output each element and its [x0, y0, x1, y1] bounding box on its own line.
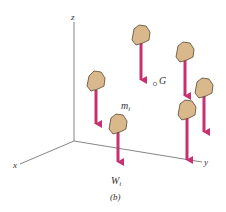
particle-5	[178, 100, 196, 160]
particle-system-diagram: z x y mi Wi G (b)	[0, 0, 226, 212]
x-axis	[20, 141, 74, 164]
y-axis	[74, 141, 202, 162]
y-axis-label: y	[203, 157, 208, 167]
rock-icon	[178, 100, 196, 120]
rock-icon	[87, 71, 105, 91]
particle-i: mi Wi	[109, 100, 130, 188]
particle-1	[87, 71, 105, 124]
particle-2	[132, 25, 150, 80]
cog-point-icon	[153, 82, 157, 86]
rock-icon	[109, 114, 127, 134]
center-of-gravity: G	[153, 75, 166, 86]
rock-icon	[176, 42, 194, 62]
mass-label: mi	[121, 100, 130, 113]
cog-label: G	[159, 75, 166, 86]
coordinate-axes: z x y	[12, 12, 208, 170]
weight-label: Wi	[111, 175, 121, 188]
z-axis-label: z	[70, 12, 75, 22]
x-axis-label: x	[12, 160, 17, 170]
rock-icon	[132, 25, 150, 45]
rock-icon	[195, 78, 213, 98]
particle-4	[195, 78, 213, 132]
figure-caption: (b)	[110, 192, 121, 202]
particle-3	[176, 42, 194, 96]
